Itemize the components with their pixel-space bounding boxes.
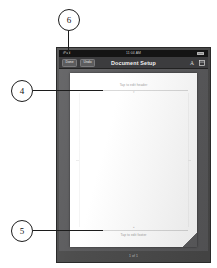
callout-leader-6 bbox=[68, 31, 69, 55]
callout-4: 4 bbox=[11, 80, 33, 102]
undo-button[interactable]: Undo bbox=[80, 59, 95, 67]
svg-text:A: A bbox=[190, 60, 194, 66]
footer-edit-zone[interactable]: Tap to edit footer ▴ bbox=[79, 231, 188, 239]
footer-caret-icon: ▴ bbox=[133, 226, 135, 229]
done-button[interactable]: Done bbox=[62, 59, 77, 67]
footer-placeholder: Tap to edit footer bbox=[121, 233, 147, 237]
page-curl-icon[interactable] bbox=[183, 233, 197, 247]
callout-5: 5 bbox=[11, 220, 33, 242]
left-margin-tick bbox=[76, 160, 79, 161]
battery-icon bbox=[197, 52, 204, 55]
toolbar-actions: A bbox=[189, 60, 205, 66]
callout-leader-5 bbox=[33, 230, 103, 231]
header-placeholder: Tap to edit header bbox=[120, 83, 148, 87]
screenshot-root: iPad 11:04 AM Done Undo Document Setup A bbox=[0, 0, 217, 268]
app-toolbar: Done Undo Document Setup A bbox=[59, 57, 208, 69]
layout-grid-icon[interactable] bbox=[199, 60, 205, 66]
left-margin-guide bbox=[79, 93, 80, 227]
page-indicator: 1 of 1 bbox=[57, 252, 210, 260]
status-bar: iPad 11:04 AM bbox=[59, 50, 208, 57]
header-edit-zone[interactable]: Tap to edit header ▾ bbox=[79, 81, 188, 89]
callout-leader-4 bbox=[33, 90, 103, 91]
text-format-icon[interactable]: A bbox=[189, 60, 195, 66]
header-caret-icon: ▾ bbox=[133, 91, 135, 94]
status-time: 11:04 AM bbox=[59, 52, 208, 55]
document-canvas[interactable]: Tap to edit header ▾ Tap to edit footer … bbox=[59, 69, 208, 251]
callout-6: 6 bbox=[58, 9, 80, 31]
document-page[interactable]: Tap to edit header ▾ Tap to edit footer … bbox=[70, 73, 197, 247]
right-margin-tick bbox=[188, 160, 191, 161]
